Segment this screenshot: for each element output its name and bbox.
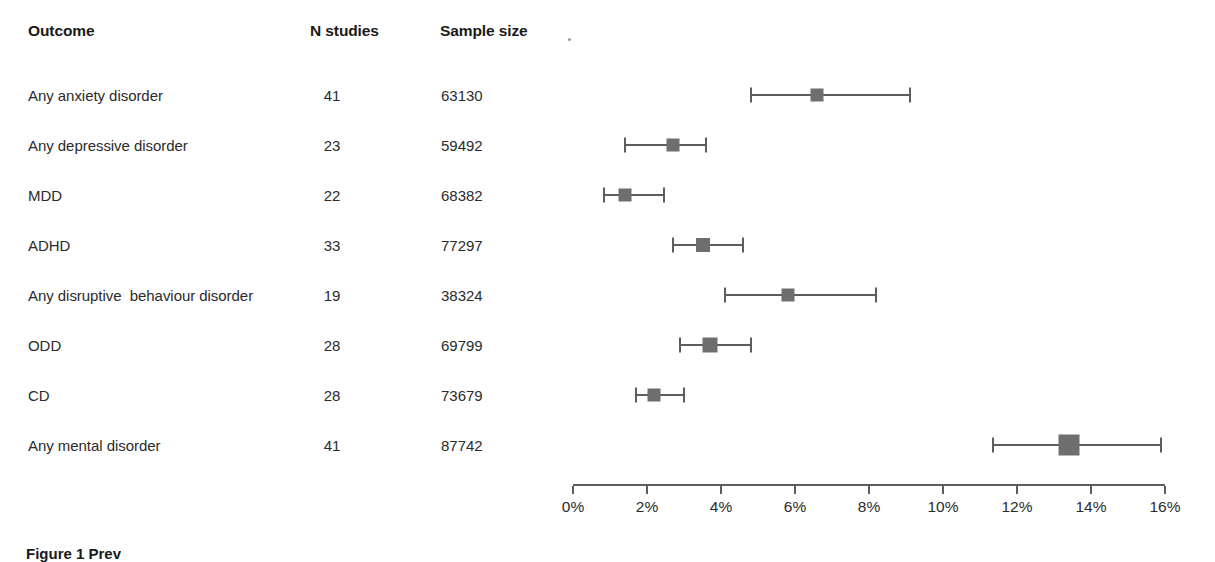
row-value-n-studies: 22 [312, 187, 352, 204]
confidence-interval-cap-upper [750, 338, 752, 353]
row-value-sample-size: 38324 [441, 287, 521, 304]
confidence-interval-cap-upper [683, 388, 685, 403]
x-axis-tick-label: 0% [562, 498, 584, 516]
point-estimate-marker [648, 389, 661, 402]
x-axis-tick-label: 6% [784, 498, 806, 516]
confidence-interval-cap-upper [705, 138, 707, 153]
x-axis-tick-label: 12% [1001, 498, 1032, 516]
x-axis-tick [1016, 486, 1018, 494]
row-value-sample-size: 69799 [441, 337, 521, 354]
point-estimate-marker [1058, 435, 1079, 456]
row-value-n-studies: 41 [312, 87, 352, 104]
x-axis-tick [794, 486, 796, 494]
row-value-n-studies: 33 [312, 237, 352, 254]
confidence-interval-cap-lower [672, 238, 674, 253]
x-axis-tick [942, 486, 944, 494]
row-value-n-studies: 19 [312, 287, 352, 304]
row-label-outcome: ODD [28, 337, 61, 354]
row-label-outcome: ADHD [28, 237, 70, 254]
x-axis-tick-label: 10% [927, 498, 958, 516]
x-axis-tick-label: 8% [858, 498, 880, 516]
point-estimate-marker [781, 289, 794, 302]
confidence-interval-line [751, 94, 910, 96]
row-value-sample-size: 63130 [441, 87, 521, 104]
row-value-sample-size: 77297 [441, 237, 521, 254]
confidence-interval-cap-lower [724, 288, 726, 303]
figure-caption: Figure 1 Prev [26, 545, 121, 562]
confidence-interval-cap-upper [909, 88, 911, 103]
point-estimate-marker [811, 89, 824, 102]
confidence-interval-cap-upper [663, 188, 665, 203]
confidence-interval-line [604, 194, 663, 196]
x-axis-tick [572, 486, 574, 494]
point-estimate-marker [702, 338, 717, 353]
x-axis-tick [646, 486, 648, 494]
row-label-outcome: Any depressive disorder [28, 137, 188, 154]
point-estimate-marker [618, 189, 631, 202]
x-axis-tick [1090, 486, 1092, 494]
column-header-outcome: Outcome [28, 22, 94, 40]
row-value-n-studies: 23 [312, 137, 352, 154]
x-axis-tick-label: 2% [636, 498, 658, 516]
row-label-outcome: Any anxiety disorder [28, 87, 163, 104]
x-axis-tick [868, 486, 870, 494]
row-label-outcome: CD [28, 387, 50, 404]
row-label-outcome: MDD [28, 187, 62, 204]
confidence-interval-line [725, 294, 877, 296]
confidence-interval-cap-lower [750, 88, 752, 103]
confidence-interval-cap-lower [992, 438, 994, 453]
row-value-n-studies: 41 [312, 437, 352, 454]
row-value-n-studies: 28 [312, 387, 352, 404]
row-value-sample-size: 59492 [441, 137, 521, 154]
row-label-outcome: Any mental disorder [28, 437, 160, 454]
row-value-n-studies: 28 [312, 337, 352, 354]
row-value-sample-size: 68382 [441, 187, 521, 204]
confidence-interval-cap-lower [603, 188, 605, 203]
x-axis-tick-label: 16% [1149, 498, 1180, 516]
row-value-sample-size: 87742 [441, 437, 521, 454]
confidence-interval-cap-lower [679, 338, 681, 353]
confidence-interval-cap-upper [875, 288, 877, 303]
x-axis-tick [1164, 486, 1166, 494]
point-estimate-marker [666, 139, 679, 152]
row-label-outcome: Any disruptive behaviour disorder [28, 287, 253, 304]
scan-artifact-dot [568, 38, 571, 41]
x-axis-tick [720, 486, 722, 494]
confidence-interval-cap-lower [624, 138, 626, 153]
row-value-sample-size: 73679 [441, 387, 521, 404]
confidence-interval-cap-upper [742, 238, 744, 253]
column-header-n-studies: N studies [310, 22, 379, 40]
confidence-interval-cap-lower [635, 388, 637, 403]
x-axis-tick-label: 14% [1075, 498, 1106, 516]
column-header-sample-size: Sample size [440, 22, 528, 40]
confidence-interval-cap-upper [1160, 438, 1162, 453]
point-estimate-marker [696, 238, 710, 252]
x-axis-tick-label: 4% [710, 498, 732, 516]
